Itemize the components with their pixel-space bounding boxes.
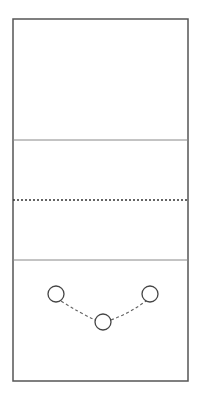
rotation-path — [111, 301, 146, 320]
player-middle — [95, 314, 111, 330]
court-diagram — [0, 0, 201, 398]
rotation-path — [61, 301, 95, 320]
player-right — [142, 286, 158, 302]
player-left — [48, 286, 64, 302]
